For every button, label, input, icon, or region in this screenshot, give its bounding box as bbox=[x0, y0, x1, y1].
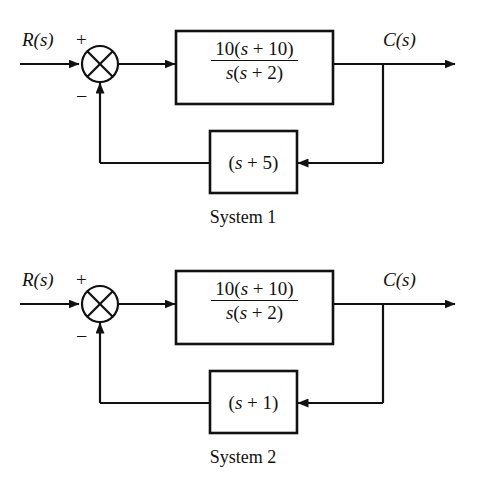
forward-numerator-system-2: 10(s + 10) bbox=[211, 278, 297, 301]
summing-plus-sign-system-1: + bbox=[76, 30, 87, 49]
input-label-system-1: R(s) bbox=[22, 30, 54, 49]
feedback-block-expression-system-1: (s + 5) bbox=[210, 152, 297, 174]
forward-denominator-system-2: s(s + 2) bbox=[211, 301, 297, 323]
summing-minus-sign-system-1: − bbox=[76, 86, 87, 106]
output-label-system-2: C(s) bbox=[383, 270, 416, 289]
feedback-block-expression-system-2: (s + 1) bbox=[210, 392, 297, 414]
output-label-system-1: C(s) bbox=[383, 30, 416, 49]
caption-system-2: System 2 bbox=[0, 448, 486, 466]
forward-block-expression-system-2: 10(s + 10) s(s + 2) bbox=[176, 278, 333, 324]
forward-block-expression-system-1: 10(s + 10) s(s + 2) bbox=[176, 38, 333, 84]
block-diagram-figure: R(s) + − 10(s + 10) s(s + 2) (s + 5) C(s… bbox=[0, 0, 486, 489]
caption-system-1: System 1 bbox=[0, 208, 486, 226]
forward-denominator-system-1: s(s + 2) bbox=[211, 61, 297, 83]
summing-minus-sign-system-2: − bbox=[76, 326, 87, 346]
input-label-system-2: R(s) bbox=[22, 270, 54, 289]
forward-numerator-system-1: 10(s + 10) bbox=[211, 38, 297, 61]
summing-plus-sign-system-2: + bbox=[76, 270, 87, 289]
